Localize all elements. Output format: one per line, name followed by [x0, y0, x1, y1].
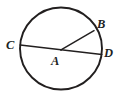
circle-outline	[20, 8, 102, 90]
vertex-label-b: B	[97, 18, 105, 31]
geometry-canvas	[0, 0, 120, 94]
center-point-marker	[60, 49, 62, 51]
vertex-label-d: D	[104, 47, 113, 60]
radius-segment-ab	[61, 31, 94, 50]
vertex-label-c: C	[6, 39, 14, 52]
vertex-label-a: A	[51, 55, 59, 68]
circle-geometry-figure: C B D A	[0, 0, 120, 94]
